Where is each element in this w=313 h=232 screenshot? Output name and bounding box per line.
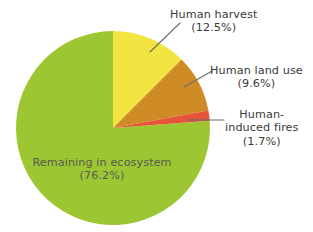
pie-label-remaining-in-ecosystem-name: Remaining in ecosystem	[28, 156, 176, 169]
pie-label-human-land-use: Human land use (9.6%)	[210, 64, 303, 91]
pie-label-human-induced-fires-value: (1.7%)	[225, 135, 299, 148]
pie-label-human-land-use-value: (9.6%)	[210, 77, 303, 90]
pie-label-human-harvest-value: (12.5%)	[170, 21, 257, 34]
pie-label-human-harvest: Human harvest (12.5%)	[170, 8, 257, 35]
pie-label-human-induced-fires-name-line2: induced fires	[225, 121, 299, 134]
pie-slices	[16, 31, 210, 225]
pie-chart-figure: Human harvest (12.5%) Human land use (9.…	[0, 0, 313, 232]
pie-label-human-land-use-name: Human land use	[210, 64, 303, 77]
pie-label-remaining-in-ecosystem: Remaining in ecosystem (76.2%)	[28, 156, 176, 183]
pie-label-human-induced-fires-name-line1: Human-	[225, 108, 299, 121]
pie-label-human-induced-fires: Human- induced fires (1.7%)	[225, 108, 299, 148]
pie-label-remaining-in-ecosystem-value: (76.2%)	[28, 169, 176, 182]
pie-label-human-harvest-name: Human harvest	[170, 8, 257, 21]
